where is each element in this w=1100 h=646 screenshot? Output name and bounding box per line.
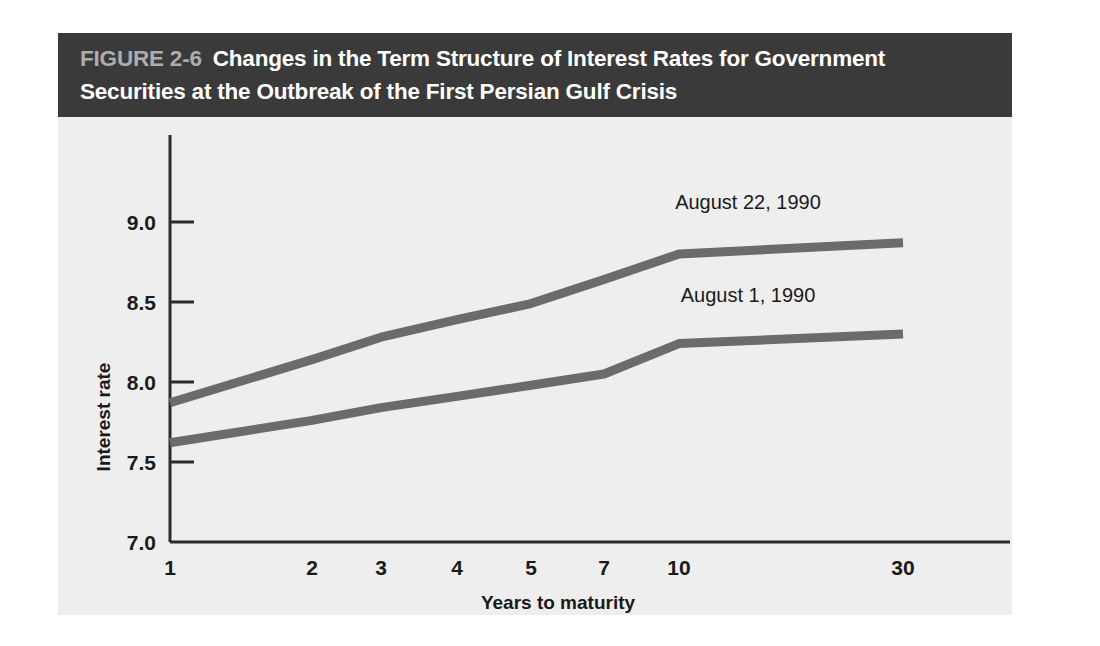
figure-title-line-2: Securities at the Outbreak of the First … bbox=[80, 75, 990, 108]
figure-title-banner: FIGURE 2-6Changes in the Term Structure … bbox=[58, 33, 1012, 117]
figure-title-text-line-1: Changes in the Term Structure of Interes… bbox=[213, 46, 885, 71]
y-tick-label-9-0: 9.0 bbox=[127, 211, 156, 234]
x-tick-label-30: 30 bbox=[891, 556, 914, 579]
x-tick-label-10: 10 bbox=[667, 556, 690, 579]
x-axis-title: Years to maturity bbox=[481, 592, 636, 613]
figure-number-label: FIGURE 2-6 bbox=[80, 46, 202, 71]
x-tick-label-7: 7 bbox=[598, 556, 610, 579]
y-tick-label-8-5: 8.5 bbox=[127, 291, 157, 314]
y-tick-label-7-0: 7.0 bbox=[127, 531, 156, 554]
y-axis-title: Interest rate bbox=[93, 363, 114, 472]
chart-svg: 9.0 8.5 8.0 7.5 7.0 Interest rate 1 2 3 … bbox=[58, 117, 1012, 615]
x-tick-label-2: 2 bbox=[306, 556, 318, 579]
series-annotation-august-1-1990: August 1, 1990 bbox=[681, 284, 816, 306]
x-tick-label-5: 5 bbox=[525, 556, 537, 579]
figure-root: FIGURE 2-6Changes in the Term Structure … bbox=[0, 0, 1100, 646]
series-line-august-22-1990 bbox=[170, 243, 903, 403]
x-tick-label-3: 3 bbox=[375, 556, 387, 579]
plot-area: 9.0 8.5 8.0 7.5 7.0 Interest rate 1 2 3 … bbox=[58, 117, 1012, 615]
series-annotation-august-22-1990: August 22, 1990 bbox=[675, 191, 821, 213]
figure-title-line-1: FIGURE 2-6Changes in the Term Structure … bbox=[80, 42, 990, 75]
x-tick-label-4: 4 bbox=[451, 556, 463, 579]
series-line-august-1-1990 bbox=[170, 334, 903, 443]
y-tick-label-7-5: 7.5 bbox=[127, 451, 157, 474]
x-tick-label-1: 1 bbox=[164, 556, 176, 579]
y-tick-label-8-0: 8.0 bbox=[127, 371, 156, 394]
